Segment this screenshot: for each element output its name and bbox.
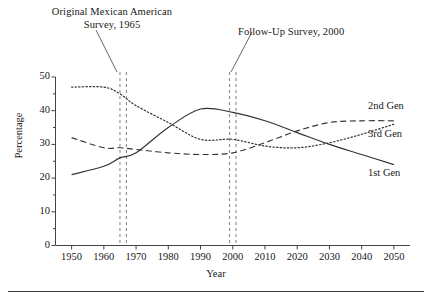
x-tick-label: 2010: [249, 251, 281, 262]
annotation-followup-survey: Follow-Up Survey, 2000: [238, 26, 388, 39]
x-tick-label: 1980: [152, 251, 184, 262]
annotation-original-survey-line2: Survey, 1965: [32, 19, 192, 32]
chart-series-group: [72, 87, 394, 175]
y-tick-label: 20: [20, 171, 50, 182]
series-label-3rd-gen: 3rd Gen: [368, 128, 402, 139]
y-axis-ticks: [52, 77, 56, 246]
x-tick-label: 1960: [88, 251, 120, 262]
x-tick-label: 2040: [346, 251, 378, 262]
x-tick-label: 2020: [281, 251, 313, 262]
y-tick-label: 40: [20, 104, 50, 115]
x-axis-ticks: [72, 246, 394, 250]
x-tick-label: 2050: [378, 251, 410, 262]
annotation-original-survey-line1: Original Mexican American: [52, 6, 172, 17]
x-tick-label: 1950: [56, 251, 88, 262]
chart-axes: [56, 77, 411, 246]
y-tick-label: 0: [20, 239, 50, 250]
annotation-original-survey: Original Mexican American Survey, 1965: [32, 6, 192, 31]
y-tick-label: 50: [20, 70, 50, 81]
x-tick-label: 2030: [313, 251, 345, 262]
y-tick-label: 30: [20, 137, 50, 148]
annotation-followup-survey-line1: Follow-Up Survey, 2000: [238, 26, 344, 37]
series-label-2nd-gen: 2nd Gen: [368, 100, 404, 111]
survey-marker-lines: [120, 72, 236, 246]
x-tick-label: 1970: [120, 251, 152, 262]
x-tick-label: 2000: [217, 251, 249, 262]
x-tick-label: 1990: [185, 251, 217, 262]
leader-line-original-survey: [96, 30, 117, 72]
series-label-1st-gen: 1st Gen: [368, 167, 400, 178]
y-tick-label: 10: [20, 205, 50, 216]
annotation-leader-lines: [96, 30, 252, 72]
x-axis-title: Year: [0, 268, 432, 279]
chart-figure: Percentage Year 01020304050 195019601970…: [0, 0, 432, 302]
footer-rule: [8, 291, 424, 292]
